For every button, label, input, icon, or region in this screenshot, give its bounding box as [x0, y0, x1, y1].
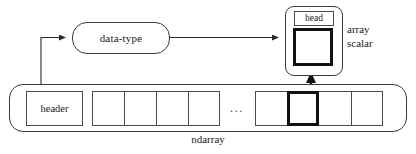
array-scalar-head-label: head — [305, 14, 323, 24]
diagram-canvas: data-type head array scalar header ... n… — [0, 0, 416, 154]
ndarray-cell[interactable] — [255, 91, 287, 126]
array-scalar-caption-line2: scalar — [347, 36, 373, 50]
ndarray-cell-highlighted[interactable] — [287, 91, 319, 126]
ndarray-cell[interactable] — [351, 91, 383, 126]
ndarray-left-cell-strip — [92, 91, 220, 126]
array-scalar-caption-line1: array — [347, 22, 373, 36]
array-scalar-head-box[interactable]: head — [294, 11, 334, 26]
ndarray-cell[interactable] — [319, 91, 351, 126]
ndarray-cell[interactable] — [156, 91, 188, 126]
ndarray-cell[interactable] — [124, 91, 156, 126]
array-scalar-caption: array scalar — [347, 22, 373, 50]
ndarray-cell[interactable] — [188, 91, 220, 126]
array-scalar-value-box[interactable] — [293, 28, 333, 66]
ndarray-ellipsis: ... — [225, 101, 249, 116]
ndarray-caption: ndarray — [0, 133, 416, 145]
ndarray-right-cell-strip — [255, 91, 383, 126]
node-data-type[interactable]: data-type — [72, 22, 170, 54]
ndarray-header-cell[interactable]: header — [26, 91, 83, 126]
data-type-label: data-type — [100, 32, 143, 44]
ndarray-header-label: header — [41, 103, 69, 114]
ndarray-cell[interactable] — [92, 91, 124, 126]
